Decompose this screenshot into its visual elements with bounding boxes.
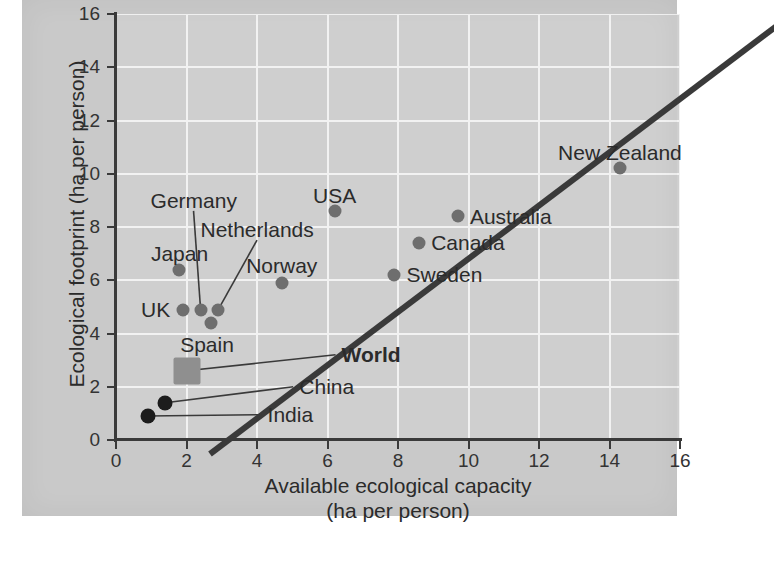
data-label-norway: Norway: [246, 255, 317, 276]
data-label-spain: Spain: [180, 334, 234, 355]
data-point-netherlands[interactable]: [212, 303, 225, 316]
data-point-canada[interactable]: [413, 236, 426, 249]
x-axis-tick-label: 16: [660, 450, 700, 472]
plot-area: New ZealandUSAAustraliaCanadaJapanSweden…: [116, 14, 680, 440]
data-label-uk: UK: [141, 299, 170, 320]
x-axis-tick-label: 12: [519, 450, 559, 472]
data-point-australia[interactable]: [451, 210, 464, 223]
x-axis-tick: [397, 440, 399, 449]
x-axis-tick: [115, 440, 117, 449]
data-point-india[interactable]: [140, 409, 155, 424]
y-axis-tick-label: 4: [66, 323, 100, 345]
data-point-germany[interactable]: [194, 303, 207, 316]
x-axis-tick: [609, 440, 611, 449]
y-axis-tick: [107, 279, 116, 281]
x-axis-tick-label: 0: [96, 450, 136, 472]
y-axis-tick-label: 16: [66, 3, 100, 25]
x-axis-tick: [679, 440, 681, 449]
gridline-horizontal: [116, 120, 680, 122]
gridline-horizontal: [116, 66, 680, 68]
x-axis-tick-label: 6: [308, 450, 348, 472]
data-point-china[interactable]: [158, 395, 173, 410]
y-axis-tick-label: 14: [66, 56, 100, 78]
data-label-india: India: [268, 404, 314, 425]
y-axis-tick-label: 2: [66, 376, 100, 398]
x-axis-tick: [468, 440, 470, 449]
x-axis-title-line1: Available ecological capacity: [116, 474, 680, 499]
y-axis-tick: [107, 333, 116, 335]
y-axis-tick-label: 8: [66, 216, 100, 238]
data-label-australia: Australia: [470, 206, 552, 227]
data-point-spain[interactable]: [205, 316, 218, 329]
data-label-netherlands: Netherlands: [201, 219, 314, 240]
x-axis-title-line2: (ha per person): [116, 499, 680, 524]
y-axis-tick: [107, 173, 116, 175]
y-axis-tick-label: 0: [66, 429, 100, 451]
gridline-horizontal: [116, 386, 680, 388]
data-label-new-zealand: New Zealand: [558, 142, 682, 163]
x-axis-tick: [186, 440, 188, 449]
data-label-world: World: [342, 344, 401, 365]
data-point-japan[interactable]: [173, 263, 186, 276]
data-point-norway[interactable]: [275, 276, 288, 289]
y-axis-tick-label: 6: [66, 269, 100, 291]
chart-panel: Ecological footprint (ha per person) New…: [22, 0, 677, 516]
data-label-canada: Canada: [431, 232, 505, 253]
x-axis-tick: [256, 440, 258, 449]
y-axis-tick: [107, 386, 116, 388]
y-axis-tick: [107, 226, 116, 228]
y-axis-tick: [107, 13, 116, 15]
data-label-sweden: Sweden: [406, 264, 482, 285]
y-axis-tick: [107, 120, 116, 122]
data-label-usa: USA: [313, 185, 356, 206]
y-axis-tick-label: 12: [66, 110, 100, 132]
data-label-germany: Germany: [151, 190, 237, 211]
x-axis-title: Available ecological capacity (ha per pe…: [116, 474, 680, 524]
x-axis-tick-label: 4: [237, 450, 277, 472]
x-axis-tick-label: 2: [167, 450, 207, 472]
data-point-world[interactable]: [173, 357, 200, 384]
y-axis-tick: [107, 66, 116, 68]
data-label-china: China: [299, 376, 354, 397]
x-axis-tick-label: 8: [378, 450, 418, 472]
y-axis-tick-label: 10: [66, 163, 100, 185]
data-point-uk[interactable]: [176, 303, 189, 316]
x-axis-tick: [538, 440, 540, 449]
x-axis-tick-label: 10: [449, 450, 489, 472]
data-label-japan: Japan: [151, 243, 208, 264]
data-point-sweden[interactable]: [388, 268, 401, 281]
x-axis-tick-label: 14: [590, 450, 630, 472]
gridline-horizontal: [116, 14, 680, 15]
gridline-horizontal: [116, 173, 680, 175]
x-axis-tick: [327, 440, 329, 449]
